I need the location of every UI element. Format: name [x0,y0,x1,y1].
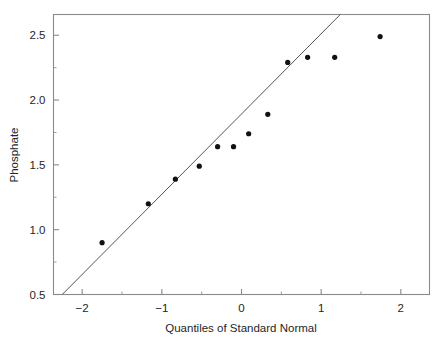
x-tick-label: 2 [398,302,404,314]
x-axis-tick-labels: −2−1012 [76,302,404,314]
data-point [246,131,251,136]
x-tick-label: 0 [238,302,244,314]
data-point [173,177,178,182]
data-point [231,144,236,149]
y-axis-title: Phosphate [8,128,20,183]
data-point [99,240,104,245]
data-point [265,112,270,117]
y-tick-label: 2.5 [30,29,46,41]
reference-line [62,15,340,295]
y-tick-label: 1.0 [30,224,46,236]
x-axis-ticks [82,289,401,295]
y-axis-tick-labels: 0.51.01.52.02.5 [30,29,46,300]
x-tick-label: 1 [318,302,324,314]
data-point [215,144,220,149]
data-point [378,34,383,39]
x-tick-label: −1 [155,302,168,314]
data-point [305,55,310,60]
data-point [146,201,151,206]
qq-plot-figure: −2−1012 0.51.01.52.02.5 Quantiles of Sta… [0,0,445,346]
plot-frame [54,15,430,295]
reference-line-path [62,15,340,295]
y-tick-label: 2.0 [30,94,46,106]
x-axis-title: Quantiles of Standard Normal [165,322,317,334]
y-axis-ticks [54,35,60,294]
data-point [285,60,290,65]
data-point [332,55,337,60]
y-tick-label: 0.5 [30,289,46,301]
x-tick-label: −2 [76,302,89,314]
plot-canvas: −2−1012 0.51.01.52.02.5 Quantiles of Sta… [0,0,445,346]
data-point [197,164,202,169]
y-tick-label: 1.5 [30,159,46,171]
